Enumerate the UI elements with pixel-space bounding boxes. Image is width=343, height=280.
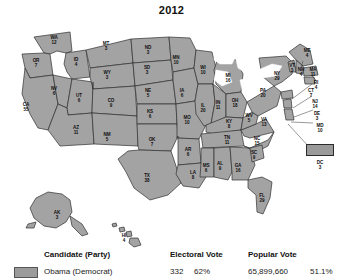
dc-swatch-box: [306, 144, 334, 156]
state-electoral-votes: 4: [74, 62, 78, 67]
states-group: [22, 32, 318, 247]
state-label-ct: CT7: [308, 88, 314, 98]
state-label-or: OR7: [33, 58, 40, 68]
state-electoral-votes: 7: [308, 93, 314, 98]
state-label-ia: IA6: [180, 88, 184, 98]
state-electoral-votes: 10: [317, 128, 324, 133]
state-electoral-votes: 13: [261, 122, 267, 127]
legend-popular-votes: 65,899,660: [248, 267, 288, 276]
state-label-mi: MI16: [226, 73, 231, 83]
state-label-ks: KS6: [147, 109, 153, 119]
state-electoral-votes: 6: [203, 168, 210, 173]
state-label-tn: TN11: [224, 135, 230, 145]
state-electoral-votes: 11: [216, 105, 221, 110]
state-electoral-votes: 6: [51, 91, 57, 96]
state-label-pa: PA20: [260, 88, 266, 98]
state-electoral-votes: 3: [54, 215, 60, 220]
state-electoral-votes: 14: [312, 104, 318, 109]
state-label-nm: NM5: [104, 132, 111, 142]
state-electoral-votes: 18: [232, 103, 239, 108]
state-electoral-votes: 11: [224, 140, 230, 145]
state-electoral-votes: 11: [73, 130, 79, 135]
state-label-la: LA8: [190, 170, 196, 180]
state-electoral-votes: 29: [259, 198, 264, 203]
state-label-nd: ND3: [145, 45, 151, 55]
state-electoral-votes: 5: [104, 137, 111, 142]
state-label-ga: GA16: [235, 163, 242, 173]
state-label-oh: OH18: [232, 98, 239, 108]
state-electoral-votes: 6: [185, 152, 191, 157]
state-label-ok: OK7: [149, 137, 156, 147]
state-electoral-votes: 3: [289, 68, 295, 73]
state-electoral-votes: 5: [245, 118, 252, 123]
state-label-ut: UT6: [76, 93, 82, 103]
legend-header-popular: Popular Vote: [248, 250, 297, 259]
state-label-co: CO9: [108, 98, 115, 108]
legend-candidate-name: Obama (Democrat): [44, 267, 112, 276]
state-electoral-votes: 4: [304, 53, 311, 58]
state-label-ne: NE5: [145, 88, 151, 98]
state-electoral-votes: 7: [149, 142, 156, 147]
state-label-fl: FL29: [259, 193, 264, 203]
state-electoral-votes: 10: [200, 70, 205, 75]
state-label-ma: MA11: [310, 67, 317, 77]
state-electoral-votes: 3: [145, 50, 151, 55]
state-electoral-votes: 7: [33, 63, 40, 68]
state-electoral-votes: 3: [103, 46, 109, 51]
state-electoral-votes: 9: [108, 103, 115, 108]
state-label-nh: NH4: [298, 67, 304, 77]
page-title: 2012: [0, 4, 343, 16]
state-label-ny: NY29: [274, 71, 280, 81]
state-electoral-votes: 5: [145, 93, 151, 98]
state-label-ar: AR6: [185, 147, 191, 157]
state-electoral-votes: 4: [314, 85, 318, 90]
state-electoral-votes: 6: [180, 93, 184, 98]
state-label-md: MD10: [317, 123, 324, 133]
state-electoral-votes: 8: [226, 124, 232, 129]
state-electoral-votes: 3: [314, 116, 320, 121]
state-electoral-votes: 4: [298, 72, 304, 77]
state-electoral-votes: 6: [147, 114, 153, 119]
state-label-me: ME4: [304, 48, 311, 58]
state-label-sc: SC9: [251, 150, 257, 160]
legend: Candidate (Party) Electoral Vote Popular…: [0, 248, 343, 280]
state-label-id: ID4: [74, 57, 78, 67]
state-label-sd: SD3: [144, 65, 150, 75]
state-label-va: VA13: [261, 117, 267, 127]
state-label-ri: RI4: [314, 80, 318, 90]
state-label-ms: MS6: [203, 163, 210, 173]
state-label-ak: AK3: [54, 210, 60, 220]
state-electoral-votes: 10: [183, 120, 190, 125]
legend-electoral-votes: 332: [170, 267, 183, 276]
state-label-wy: WY3: [103, 70, 110, 80]
state-label-in: IN11: [216, 100, 221, 110]
state-electoral-votes: 3: [144, 70, 150, 75]
state-label-dc: DC3: [317, 160, 323, 170]
state-label-mo: MO10: [183, 115, 190, 125]
state-label-nc: NC15: [254, 136, 260, 146]
state-label-ky: KY8: [226, 119, 232, 129]
state-label-wv: WV5: [245, 113, 252, 123]
state-electoral-votes: 3: [103, 75, 110, 80]
us-map-svg: .st{fill:#a3a3a3;stroke:#2f2f2f;stroke-w…: [0, 20, 343, 248]
state-label-nv: NV6: [51, 86, 57, 96]
state-label-mt: MT3: [103, 41, 109, 51]
state-electoral-votes: 15: [254, 141, 260, 146]
state-label-il: IL20: [201, 103, 206, 113]
state-electoral-votes: 38: [144, 178, 150, 183]
state-label-vt: VT3: [289, 63, 295, 73]
legend-electoral-pct: 62%: [194, 267, 210, 276]
state-electoral-votes: 10: [173, 60, 180, 65]
state-label-ca: CA55: [23, 102, 29, 112]
state-electoral-votes: 8: [190, 175, 196, 180]
state-label-wa: WA12: [50, 35, 57, 45]
state-electoral-votes: 4: [122, 238, 126, 243]
legend-header-candidate: Candidate (Party): [44, 250, 110, 259]
state-electoral-votes: 55: [23, 107, 29, 112]
state-electoral-votes: 20: [201, 108, 206, 113]
state-electoral-votes: 6: [76, 98, 82, 103]
state-electoral-votes: 16: [235, 168, 242, 173]
legend-popular-pct: 51.1%: [310, 267, 333, 276]
state-electoral-votes: 16: [226, 78, 231, 83]
state-label-az: AZ11: [73, 125, 79, 135]
